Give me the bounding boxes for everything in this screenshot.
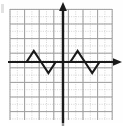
coordinate-plane-svg [0, 0, 123, 129]
graph-figure [0, 0, 123, 129]
bottom-margin-mask [0, 123, 123, 129]
scan-artifact-mark [1, 4, 4, 13]
left-margin-mask [0, 0, 8, 129]
